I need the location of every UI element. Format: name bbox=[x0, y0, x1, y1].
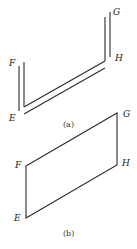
label-a-h: H bbox=[114, 53, 123, 63]
diagonal-outer-edge bbox=[24, 68, 105, 114]
figure-a: F E G H (a) bbox=[8, 7, 123, 129]
caption-a: (a) bbox=[63, 120, 74, 129]
label-b-e: E bbox=[13, 213, 21, 223]
label-a-g: G bbox=[113, 7, 120, 17]
diagonal-inner-edge bbox=[24, 61, 105, 107]
label-b-g: G bbox=[123, 109, 130, 119]
label-a-f: F bbox=[8, 58, 16, 68]
label-b-h: H bbox=[121, 158, 130, 168]
caption-b: (b) bbox=[63, 229, 74, 238]
diagram-canvas: F E G H (a) F E G H (b) bbox=[0, 0, 137, 249]
label-b-f: F bbox=[14, 160, 22, 170]
label-a-e: E bbox=[8, 113, 16, 123]
